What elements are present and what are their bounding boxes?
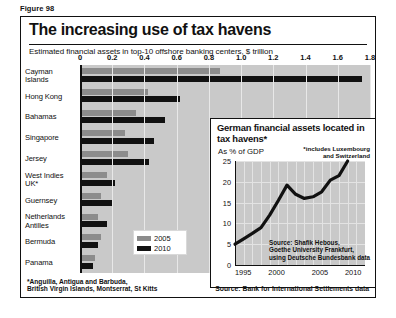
x-tick-0.6: 0.6: [171, 53, 181, 62]
inset-y-tick-5: 5: [213, 240, 231, 249]
legend-swatch-2005: [137, 236, 151, 241]
inset-y-tick-25: 25: [213, 157, 231, 166]
inset-x-axis-line: [235, 265, 365, 267]
category-label-jersey: Jersey: [25, 155, 77, 163]
inset-x-tick-1995: 1995: [235, 268, 251, 277]
bar-2005: [80, 214, 98, 220]
x-tick-1.0: 1.0: [236, 53, 246, 62]
bar-2010: [80, 263, 93, 269]
category-label-cayman-islands: CaymanIslands: [25, 68, 77, 85]
inset-line-chart: German financial assets located in tax h…: [210, 118, 376, 288]
gridline: [112, 65, 113, 273]
bar-2010: [80, 180, 115, 186]
bar-2010: [80, 76, 362, 82]
bar-chart-x-axis: 00.20.40.60.81.01.21.41.61.8: [80, 53, 370, 65]
figure-container: Figure 98 The increasing use of tax have…: [0, 0, 396, 318]
x-tick-1.8: 1.8: [365, 53, 375, 62]
bar-2005: [80, 172, 107, 178]
legend-item-2010: 2010: [137, 243, 186, 253]
inset-y-tick-20: 20: [213, 177, 231, 186]
chart-title: The increasing use of tax havens: [29, 21, 271, 39]
inset-x-tick-2005: 2005: [312, 268, 328, 277]
footnote-right: Source: Bank for International Settlemen…: [215, 285, 369, 292]
legend-label-2005: 2005: [154, 234, 171, 243]
footnote-left: *Anguilla, Antigua and Barbuda,British V…: [27, 278, 227, 293]
x-tick-0.8: 0.8: [204, 53, 214, 62]
inset-y-tick-15: 15: [213, 198, 231, 207]
chart-panel: The increasing use of tax havens Estimat…: [20, 16, 376, 298]
bar-row: [80, 67, 370, 88]
bar-2010: [80, 96, 180, 102]
x-tick-1.4: 1.4: [300, 53, 310, 62]
category-label-west-indies-uk: West IndiesUK*: [25, 172, 77, 189]
bar-2005: [80, 255, 95, 261]
category-label-panama: Panama: [25, 259, 77, 267]
bar-2010: [80, 200, 112, 206]
inset-source-note: Source: Shafik Hebous,Goethe University …: [269, 239, 373, 261]
inset-title: German financial assets located in tax h…: [217, 123, 367, 144]
category-label-netherlands-antilles: NetherlandsAntilles: [25, 213, 77, 230]
bar-2005: [80, 193, 101, 199]
inset-footnote-note: *includes Luxembourgand Switzerland: [292, 145, 370, 159]
figure-label: Figure 98: [20, 4, 54, 13]
category-label-singapore: Singapore: [25, 134, 77, 142]
category-label-guernsey: Guernsey: [25, 197, 77, 205]
bar-2005: [80, 89, 148, 95]
inset-y-tick-10: 10: [213, 219, 231, 228]
legend-item-2005: 2005: [137, 233, 186, 243]
bar-2010: [80, 159, 149, 165]
category-label-bahamas: Bahamas: [25, 113, 77, 121]
bar-2005: [80, 130, 125, 136]
bar-2010: [80, 242, 98, 248]
inset-y-axis-line: [235, 161, 236, 265]
x-tick-0.4: 0.4: [139, 53, 149, 62]
bar-chart-legend: 2005 2010: [133, 230, 187, 255]
bar-2005: [80, 234, 101, 240]
inset-y-tick-0: 0: [213, 261, 231, 270]
bar-chart-category-labels: CaymanIslandsHong KongBahamasSingaporeJe…: [25, 65, 79, 273]
bar-2005: [80, 110, 136, 116]
bar-2005: [80, 68, 220, 74]
x-tick-0.2: 0.2: [107, 53, 117, 62]
bar-2010: [80, 221, 107, 227]
value-axis-line: [80, 65, 82, 273]
bar-2010: [80, 117, 165, 123]
bar-2010: [80, 138, 154, 144]
title-divider: [29, 44, 367, 45]
x-tick-1.2: 1.2: [268, 53, 278, 62]
inset-x-tick-2000: 2000: [268, 268, 284, 277]
legend-label-2010: 2010: [154, 244, 171, 253]
category-label-bermuda: Bermuda: [25, 238, 77, 246]
category-label-hong-kong: Hong Kong: [25, 93, 77, 101]
x-tick-1.6: 1.6: [333, 53, 343, 62]
x-tick-0: 0: [78, 53, 82, 62]
inset-subtitle: As % of GDP: [218, 147, 264, 156]
legend-swatch-2010: [137, 246, 151, 251]
inset-x-tick-2010: 2010: [345, 268, 361, 277]
bar-2005: [80, 151, 128, 157]
bar-row: [80, 88, 370, 109]
